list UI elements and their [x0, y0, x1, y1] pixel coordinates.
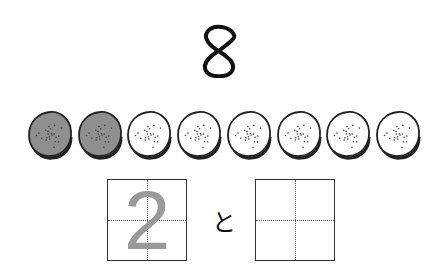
number-eight-glyph — [196, 22, 244, 78]
cookie-empty-icon — [225, 109, 273, 161]
cookie-filled-icon — [26, 109, 74, 161]
answer-box-left[interactable]: 2 — [107, 179, 187, 261]
cookie-empty-icon — [275, 109, 323, 161]
answer-box-right[interactable] — [255, 179, 335, 261]
cookie-empty-icon — [324, 109, 372, 161]
connector-text: と — [212, 203, 236, 238]
target-number: 8 — [0, 22, 440, 78]
cookie-filled-icon — [76, 109, 124, 161]
cookie-empty-icon — [374, 109, 422, 161]
cookie-row — [26, 109, 422, 163]
cookie-empty-icon — [125, 109, 173, 161]
trace-digit: 2 — [108, 174, 186, 266]
cookie-empty-icon — [175, 109, 223, 161]
guide-line-horizontal — [256, 220, 334, 221]
